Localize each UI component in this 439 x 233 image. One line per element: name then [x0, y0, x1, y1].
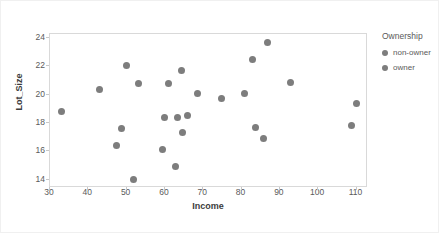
- data-point[interactable]: [161, 114, 168, 121]
- y-axis-tick-mark: [46, 179, 49, 180]
- y-axis-tick-mark: [46, 65, 49, 66]
- legend-item-label: non-owner: [393, 48, 431, 57]
- data-point[interactable]: [178, 67, 185, 74]
- x-axis-tick-mark: [317, 187, 318, 190]
- data-point[interactable]: [249, 56, 256, 63]
- data-point[interactable]: [135, 80, 142, 87]
- y-axis-tick-mark: [46, 94, 49, 95]
- x-axis-tick-mark: [279, 187, 280, 190]
- data-point[interactable]: [113, 142, 120, 149]
- data-point[interactable]: [218, 95, 225, 102]
- legend-marker-icon: [382, 50, 388, 56]
- data-point[interactable]: [287, 79, 294, 86]
- y-axis-tick-mark: [46, 150, 49, 151]
- y-axis-tick-mark: [46, 37, 49, 38]
- x-axis-tick-mark: [241, 187, 242, 190]
- data-point[interactable]: [172, 163, 179, 170]
- x-axis-tick-mark: [126, 187, 127, 190]
- legend-item-owner[interactable]: owner: [382, 63, 439, 72]
- y-axis-tick-label: 22: [23, 60, 45, 70]
- x-axis-label: Income: [49, 201, 367, 211]
- legend-item-non-owner[interactable]: non-owner: [382, 48, 439, 57]
- y-axis-tick-label: 14: [23, 174, 45, 184]
- data-point[interactable]: [184, 112, 191, 119]
- y-axis-tick-mark: [46, 122, 49, 123]
- data-point[interactable]: [130, 176, 137, 183]
- data-point[interactable]: [118, 125, 125, 132]
- data-point[interactable]: [165, 80, 172, 87]
- data-point[interactable]: [159, 146, 166, 153]
- x-axis-tick-mark: [356, 187, 357, 190]
- data-point[interactable]: [348, 122, 355, 129]
- legend-title: Ownership: [382, 31, 439, 41]
- data-point[interactable]: [174, 114, 181, 121]
- data-point[interactable]: [252, 124, 259, 131]
- plot-area: [49, 33, 367, 187]
- y-axis-tick-label: 24: [23, 32, 45, 42]
- y-axis-tick-label: 20: [23, 89, 45, 99]
- data-point[interactable]: [353, 100, 360, 107]
- data-point[interactable]: [241, 90, 248, 97]
- data-point[interactable]: [123, 62, 130, 69]
- legend-item-label: owner: [393, 63, 415, 72]
- data-point[interactable]: [58, 108, 65, 115]
- x-axis-tick-mark: [49, 187, 50, 190]
- legend: Ownership non-owner owner: [382, 31, 439, 78]
- data-point[interactable]: [179, 129, 186, 136]
- scatter-plot-figure: Lot_Size Income Ownership non-owner owne…: [0, 0, 439, 233]
- x-axis-tick-mark: [87, 187, 88, 190]
- data-point[interactable]: [260, 135, 267, 142]
- data-point[interactable]: [96, 86, 103, 93]
- x-axis-tick-mark: [202, 187, 203, 190]
- y-axis-tick-label: 16: [23, 145, 45, 155]
- data-point[interactable]: [264, 39, 271, 46]
- y-axis-tick-label: 18: [23, 117, 45, 127]
- legend-marker-icon: [382, 65, 388, 71]
- x-axis-tick-mark: [164, 187, 165, 190]
- data-point[interactable]: [194, 90, 201, 97]
